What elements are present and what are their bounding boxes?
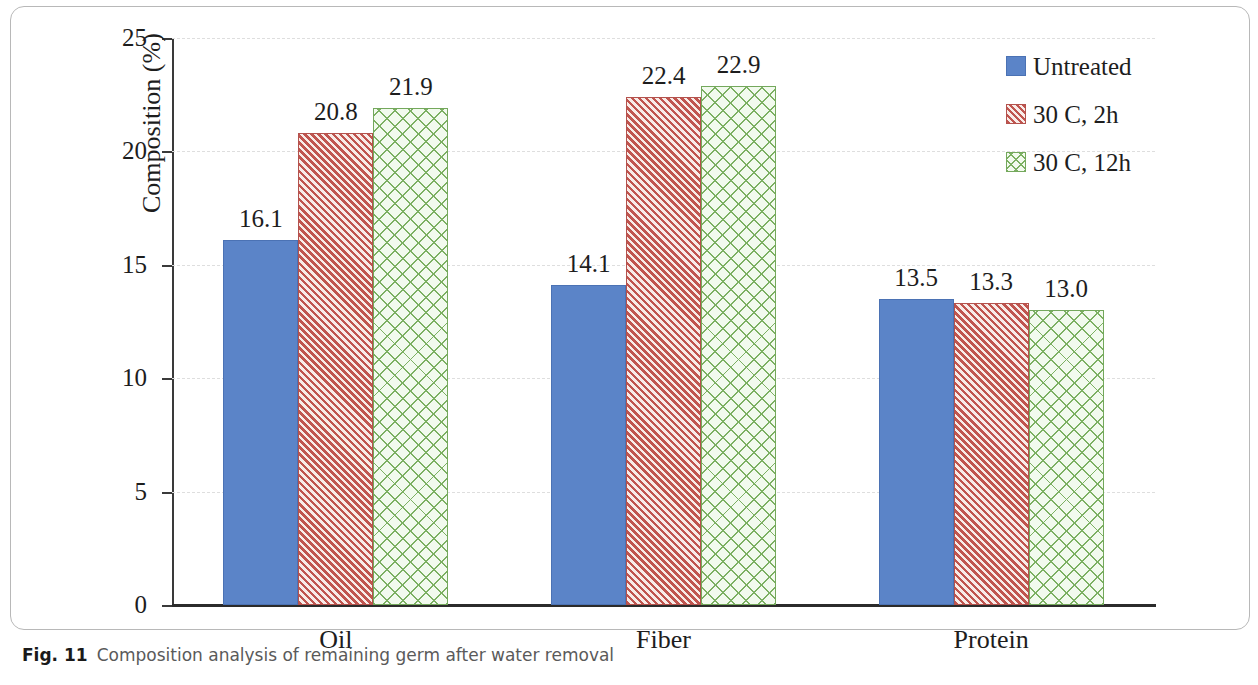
legend-label: Untreated [1033,54,1132,79]
bar-value-label: 22.9 [687,52,790,77]
y-axis-tick [162,265,172,267]
figure-caption-text: Composition analysis of remaining germ a… [97,645,614,665]
y-axis-tick-label: 15 [87,252,147,277]
y-axis-tick [162,492,172,494]
legend-swatch-icon [1006,56,1026,76]
bar-value-label: 21.9 [359,74,462,99]
bar-protein-2 [1029,310,1104,605]
legend-item-1[interactable]: 30 C, 2h [1006,90,1236,138]
legend-item-0[interactable]: Untreated [1006,42,1236,90]
chart-legend: Untreated30 C, 2h30 C, 12h [1006,42,1236,186]
bar-oil-0 [223,240,298,605]
bar-value-label: 16.1 [209,206,312,231]
legend-item-2[interactable]: 30 C, 12h [1006,138,1236,186]
y-axis-tick-label: 5 [87,479,147,504]
bar-oil-1 [298,133,373,605]
y-axis-title: Composition (%) [137,33,167,213]
y-axis-tick-label: 0 [87,592,147,617]
bar-value-label: 14.1 [537,251,640,276]
legend-label: 30 C, 12h [1033,150,1131,175]
legend-label: 30 C, 2h [1033,102,1118,127]
legend-swatch-icon [1006,152,1026,172]
figure-caption-label: Fig. 11 [22,645,88,665]
bar-fiber-0 [551,285,626,605]
y-axis-tick [162,378,172,380]
bar-value-label: 20.8 [284,99,387,124]
bar-protein-1 [954,303,1029,605]
legend-swatch-icon [1006,104,1026,124]
y-axis-tick-label: 10 [87,365,147,390]
bar-fiber-1 [626,97,701,605]
figure-caption: Fig. 11Composition analysis of remaining… [22,645,614,665]
bar-oil-2 [373,108,448,605]
gridline [172,38,1155,39]
y-axis-tick [162,605,172,607]
bar-fiber-2 [701,86,776,605]
bar-protein-0 [879,299,954,605]
bar-value-label: 13.0 [1015,276,1118,301]
x-axis-label-protein: Protein [827,627,1155,653]
